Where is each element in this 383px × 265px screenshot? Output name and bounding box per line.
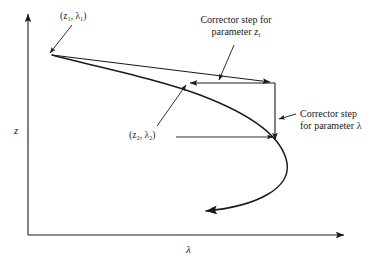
annotation-corrector-step-z-line1: Corrector step for [200,14,271,25]
leader-point-2 [157,85,186,126]
annotation-corrector-step-lambda-line2: for parameter λ [300,120,361,131]
x-axis-label: λ [186,243,191,256]
annotation-corrector-step-z-sub: i [259,26,261,37]
annotation-corrector-step-z: Corrector step for parameter zi [177,14,295,38]
annotation-corrector-step-lambda-line1: Corrector step [300,108,357,119]
y-axis-label: z [14,124,18,137]
leader-corrector-lambda [279,114,296,119]
solution-branch-curve [52,55,287,211]
point-label-2: (z₂, λ₂) [129,130,156,141]
leader-point-1 [50,25,72,53]
point-label-1: (z₁, λ₁) [60,11,87,22]
axis-lines [28,14,344,235]
diagram-canvas [0,0,383,265]
continuation-method-diagram: z λ (z₁, λ₁) (z₂, λ₂) Corrector step for… [0,0,383,265]
leader-corrector-z [219,45,234,80]
predictor-tangent-line [52,55,270,82]
annotation-corrector-step-lambda: Corrector step for parameter λ [300,108,382,132]
annotation-corrector-step-z-line2: parameter z [212,26,259,37]
